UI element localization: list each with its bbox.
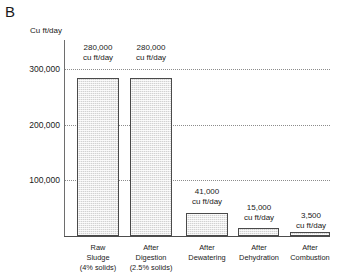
bar-after-combustion	[290, 232, 330, 236]
value-label-after-dewatering: 41,000 cu ft/day	[177, 187, 237, 207]
value-unit: cu ft/day	[177, 197, 237, 207]
value-label-after-digestion: 280,000 cu ft/day	[121, 43, 181, 63]
value-unit: cu ft/day	[121, 53, 181, 63]
value-label-after-dehydration: 15,000 cu ft/day	[229, 203, 289, 223]
y-axis-line	[64, 40, 65, 236]
value-number: 41,000	[177, 187, 237, 197]
value-unit: cu ft/day	[281, 221, 341, 231]
category-line: (2.5% solids)	[116, 263, 186, 273]
value-number: 280,000	[68, 43, 128, 53]
bar-raw-sludge	[77, 78, 119, 236]
value-unit: cu ft/day	[229, 213, 289, 223]
value-number: 15,000	[229, 203, 289, 213]
category-line: After	[275, 243, 345, 253]
gridline-300000	[64, 69, 330, 70]
bar-after-dehydration	[238, 228, 279, 236]
value-label-raw-sludge: 280,000 cu ft/day	[68, 43, 128, 63]
value-number: 280,000	[121, 43, 181, 53]
value-unit: cu ft/day	[68, 53, 128, 63]
bar-chart-figure: B Cu ft/day 300,000 200,000 100,000 280,…	[0, 0, 346, 274]
value-label-after-combustion: 3,500 cu ft/day	[281, 211, 341, 231]
y-tick-label-100000: 100,000	[4, 176, 60, 185]
y-axis-caption: Cu ft/day	[30, 27, 62, 35]
category-line: Combustion	[275, 253, 345, 263]
panel-label: B	[5, 4, 15, 19]
y-tick-label-200000: 200,000	[4, 121, 60, 130]
y-tick-label-300000: 300,000	[4, 65, 60, 74]
value-number: 3,500	[281, 211, 341, 221]
bar-after-digestion	[130, 78, 172, 236]
bar-after-dewatering	[186, 213, 228, 236]
category-label-after-combustion: After Combustion	[275, 243, 345, 263]
x-axis-baseline	[64, 236, 330, 237]
